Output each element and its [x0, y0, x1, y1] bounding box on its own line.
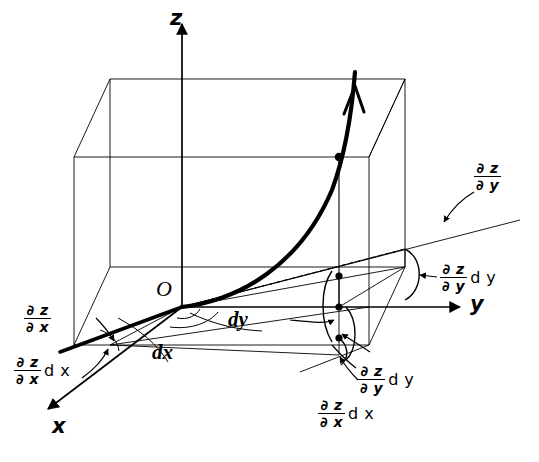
- function-curve-group: [182, 72, 364, 307]
- box-top-left-edge: [74, 79, 110, 157]
- box-bottom-right-edge: [369, 267, 405, 345]
- partial-z-y-numerator-right: ∂ z: [440, 262, 467, 278]
- partial-z-x-numerator-2: ∂ z: [14, 355, 41, 371]
- partial-z-x-fraction-2: ∂ z ∂ x: [14, 355, 41, 386]
- partial-z-x-fraction: ∂ z ∂ x: [24, 303, 51, 334]
- partial-derivative-figure: z y x O dy dx ∂ z ∂ x ∂ z ∂ x d x ∂ z ∂ …: [0, 0, 539, 462]
- y-axis-label: y: [470, 294, 484, 315]
- partial-z-y-denominator-bottom: ∂ y: [358, 380, 385, 395]
- leader-dzdy-dy-right: [420, 275, 437, 277]
- x-axis-label: x: [52, 416, 66, 437]
- partial-z-y-numerator-bottom: ∂ z: [358, 364, 385, 380]
- partial-z-y-plain-label: ∂ z ∂ y: [474, 161, 501, 192]
- box-bottom-left-edge: [74, 267, 110, 345]
- partial-z-y-fraction-right: ∂ z ∂ y: [440, 262, 467, 293]
- dx-suffix-bottom: d x: [348, 406, 374, 422]
- partial-z-y-times-dy-right-label: ∂ z ∂ y d y: [440, 262, 496, 293]
- dx-label: dx: [152, 342, 173, 363]
- partial-z-y-denominator: ∂ y: [474, 177, 501, 192]
- dot-upper: [335, 272, 342, 279]
- partial-z-x-times-dx-label: ∂ z ∂ x d x: [14, 355, 70, 386]
- partial-z-x-plain-label: ∂ z ∂ x: [24, 303, 51, 334]
- tangent-plane-base-diagonal: [110, 345, 339, 355]
- diagram-canvas: [0, 0, 539, 462]
- partial-z-y-denominator-right: ∂ y: [440, 278, 467, 293]
- angle-arc-origin-small: [177, 309, 200, 319]
- partial-z-y-numerator: ∂ z: [474, 161, 501, 177]
- dot-middle: [335, 303, 342, 310]
- function-curve: [182, 72, 355, 307]
- partial-z-x-numerator-bottom: ∂ z: [318, 398, 345, 414]
- leader-dzdy-dy-bottom: [340, 357, 358, 380]
- dy-suffix-bottom: d y: [388, 372, 414, 388]
- brace-right-dzdy: [405, 249, 419, 300]
- partial-z-x-denominator-2: ∂ x: [14, 371, 41, 386]
- partial-z-x-times-dx-bottom-label: ∂ z ∂ x d x: [318, 398, 374, 429]
- origin-label: O: [156, 278, 172, 300]
- partial-z-x-denominator-bottom: ∂ x: [318, 414, 345, 429]
- leader-to-plane-edge: [444, 192, 474, 222]
- leader-arrows-group: [82, 192, 474, 380]
- reference-box: [74, 79, 405, 345]
- partial-z-x-numerator: ∂ z: [24, 303, 51, 319]
- dy-suffix-right: d y: [470, 270, 496, 286]
- partial-z-y-fraction-bottom: ∂ z ∂ y: [358, 364, 385, 395]
- dy-label: dy: [228, 309, 248, 330]
- partial-z-y-times-dy-bottom-label: ∂ z ∂ y d y: [358, 364, 414, 395]
- partial-z-x-fraction-bottom: ∂ z ∂ x: [318, 398, 345, 429]
- box-right-face-diagonal: [369, 79, 405, 157]
- partial-z-x-denominator: ∂ x: [24, 319, 51, 334]
- dx-suffix-left: d x: [44, 363, 70, 379]
- leader-dy-to-dot: [290, 320, 334, 322]
- z-axis-label: z: [170, 8, 182, 29]
- partial-z-y-fraction: ∂ z ∂ y: [474, 161, 501, 192]
